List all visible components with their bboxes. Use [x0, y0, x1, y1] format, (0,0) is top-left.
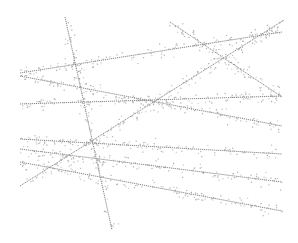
line-steep: [65, 17, 112, 230]
line-segments: [20, 17, 284, 230]
noise-points: [20, 20, 284, 227]
line-long-rising: [20, 20, 284, 186]
line-top-falling: [170, 22, 282, 97]
line-point-cloud-figure: [0, 0, 298, 243]
scatter-lines-canvas: [0, 0, 298, 243]
line-low-3: [20, 162, 282, 211]
